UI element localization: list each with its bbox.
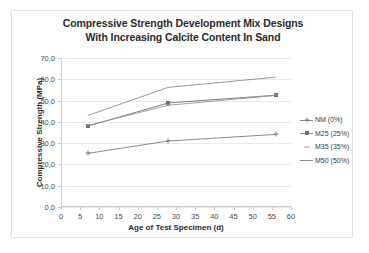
legend-label-m35: M35 (35%) [315,143,349,150]
x-tick-mark [80,207,81,210]
legend-swatch-m35 [300,143,313,151]
x-tick-mark [61,207,62,210]
dash-marker-icon [304,146,309,147]
legend-swatch-nm [300,116,313,124]
x-axis-title-label: Age of Test Specimen (d) [128,223,223,232]
data-point [85,151,90,156]
y-tick-label: 30,0 [40,139,55,148]
x-tick-label: 60 [287,212,295,221]
y-axis-title-label: Compressive Strength (MPa) [36,78,45,187]
legend-item-m25[interactable]: M25 (25%) [300,127,354,141]
x-tick-label: 40 [210,212,218,221]
data-point [273,132,278,137]
square-marker-icon [305,131,309,135]
x-tick-label: 10 [95,212,103,221]
chart-title-line-1: Compressive Strength Development Mix Des… [12,17,354,31]
x-tick-mark [157,207,158,210]
legend-item-m50[interactable]: M50 (50%) [300,154,354,168]
y-tick-label: 70,0 [40,54,55,63]
x-tick-label: 35 [191,212,199,221]
cross-marker-icon [304,117,309,122]
x-tick-mark [234,207,235,210]
data-point [166,139,171,144]
x-tick-label: 55 [268,212,276,221]
x-tick-mark [99,207,100,210]
y-tick-label: 0,0 [45,203,55,212]
series-lines-group [61,58,291,207]
data-point [166,105,171,106]
data-point [85,125,90,126]
y-tick-label: 40,0 [40,117,55,126]
x-tick-label: 45 [229,212,237,221]
series-line-m50 [88,77,276,115]
x-tick-mark [195,207,196,210]
legend-swatch-m50 [300,156,313,164]
y-tick-label: 60,0 [40,75,55,84]
plot-area: 0,010,020,030,040,050,060,070,0 05101520… [61,58,291,207]
legend-label-m25: M25 (25%) [315,130,349,137]
y-tick-label: 10,0 [40,181,55,190]
x-tick-label: 25 [153,212,161,221]
x-tick-mark [138,207,139,210]
x-tick-label: 50 [248,212,256,221]
chart-legend: NM (0%) M25 (25%) M35 (35%) M50 (50%) [300,113,354,167]
chart-title-line-2: With Increasing Calcite Content In Sand [12,31,354,45]
x-tick-label: 20 [133,212,141,221]
x-tick-mark [291,207,292,210]
x-tick-label: 5 [78,212,82,221]
chart-title: Compressive Strength Development Mix Des… [12,17,354,44]
y-tick-label: 50,0 [40,96,55,105]
legend-label-nm: NM (0%) [315,116,343,123]
chart-figure: Compressive Strength Development Mix Des… [11,10,353,238]
x-tick-mark [253,207,254,210]
x-tick-mark [176,207,177,210]
data-point [273,95,278,96]
series-line-m25 [88,95,276,126]
legend-item-nm[interactable]: NM (0%) [300,113,354,127]
x-tick-mark [272,207,273,210]
legend-item-m35[interactable]: M35 (35%) [300,140,354,154]
x-tick-mark [214,207,215,210]
x-tick-label: 15 [114,212,122,221]
x-tick-label: 0 [59,212,63,221]
x-tick-mark [119,207,120,210]
legend-swatch-m25 [300,129,313,137]
x-tick-label: 30 [172,212,180,221]
legend-label-m50: M50 (50%) [315,157,349,164]
series-line-nm [88,134,276,153]
x-axis-title: Age of Test Specimen (d) [61,223,291,232]
series-line-m35 [88,95,276,125]
y-tick-label: 20,0 [40,160,55,169]
